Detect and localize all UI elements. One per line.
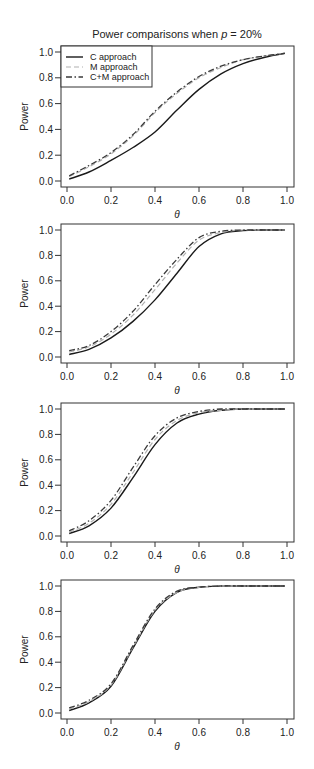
x-tick-label: 0.4 [148,371,162,382]
series-line-c-m-approach [69,230,285,351]
series-line-m-approach [69,230,285,352]
x-axis: 0.00.20.40.60.81.0θ [60,719,294,752]
x-tick-label: 0.2 [104,727,118,738]
y-tick-label: 0.6 [39,454,53,465]
y-tick-label: 0.2 [39,150,53,161]
y-tick-label: 1.0 [39,404,53,415]
y-axis: 0.00.20.40.60.81.0Power [19,225,61,363]
x-tick-label: 0.0 [60,195,74,206]
x-tick-label: 0.6 [192,550,206,561]
y-axis-title: Power [19,635,30,664]
chart-panel-4: 0.00.20.40.60.81.0Power0.00.20.40.60.81.… [19,580,294,752]
series-line-c-approach [69,409,285,534]
legend: C approachM approachC+M approach [61,46,152,87]
x-tick-label: 0.0 [60,727,74,738]
y-axis-title: Power [19,102,30,131]
y-tick-label: 0.4 [39,657,53,668]
y-tick-label: 0.8 [39,250,53,261]
y-tick-label: 0.8 [39,429,53,440]
power-comparison-figure: Power comparisons when p = 20% 0.00.20.4… [0,0,314,769]
y-tick-label: 1.0 [39,581,53,592]
x-tick-label: 0.6 [192,371,206,382]
y-tick-label: 0.4 [39,480,53,491]
x-tick-label: 0.8 [236,550,250,561]
x-tick-label: 1.0 [280,195,294,206]
x-tick-label: 0.4 [148,195,162,206]
x-axis: 0.00.20.40.60.81.0θ [60,363,294,396]
y-tick-label: 0.8 [39,606,53,617]
y-tick-label: 1.0 [39,47,53,58]
x-tick-label: 0.6 [192,195,206,206]
y-tick-label: 0.2 [39,505,53,516]
x-tick-label: 0.0 [60,371,74,382]
chart-panel-2: 0.00.20.40.60.81.0Power0.00.20.40.60.81.… [19,224,294,396]
series-line-c-m-approach [69,409,285,531]
x-axis-title: θ [174,564,180,575]
x-tick-label: 0.8 [236,371,250,382]
y-axis: 0.00.20.40.60.81.0Power [19,581,61,719]
y-tick-label: 0.0 [39,176,53,187]
x-axis: 0.00.20.40.60.81.0θ [60,542,294,575]
series-line-m-approach [69,409,285,532]
y-tick-label: 0.2 [39,682,53,693]
y-tick-label: 1.0 [39,225,53,236]
series-line-c-m-approach [69,586,285,708]
x-tick-label: 1.0 [280,727,294,738]
y-tick-label: 0.6 [39,275,53,286]
x-tick-label: 0.8 [236,195,250,206]
x-tick-label: 0.8 [236,727,250,738]
y-tick-label: 0.4 [39,301,53,312]
x-axis-title: θ [174,385,180,396]
x-tick-label: 0.4 [148,727,162,738]
series-line-c-approach [69,230,285,355]
x-tick-label: 0.4 [148,550,162,561]
chart-panel-1: 0.00.20.40.60.81.0Power0.00.20.40.60.81.… [19,46,294,220]
x-tick-label: 0.2 [104,371,118,382]
x-axis: 0.00.20.40.60.81.0θ [60,187,294,220]
series-line-m-approach [69,586,285,709]
x-tick-label: 0.2 [104,550,118,561]
y-tick-label: 0.0 [39,531,53,542]
x-axis-title: θ [174,741,180,752]
chart-panel-3: 0.00.20.40.60.81.0Power0.00.20.40.60.81.… [19,403,294,575]
y-tick-label: 0.6 [39,631,53,642]
y-axis: 0.00.20.40.60.81.0Power [19,47,61,187]
series-line-c-approach [69,586,285,711]
figure-title: Power comparisons when p = 20% [92,28,262,40]
y-tick-label: 0.4 [39,124,53,135]
y-axis-title: Power [19,458,30,487]
legend-label: C+M approach [90,72,149,82]
legend-label: M approach [90,62,138,72]
x-tick-label: 1.0 [280,371,294,382]
y-tick-label: 0.0 [39,352,53,363]
legend-label: C approach [90,52,137,62]
y-axis-title: Power [19,279,30,308]
x-tick-label: 0.6 [192,727,206,738]
y-axis: 0.00.20.40.60.81.0Power [19,404,61,542]
x-axis-title: θ [174,209,180,220]
y-tick-label: 0.6 [39,98,53,109]
x-tick-label: 0.2 [104,195,118,206]
x-tick-label: 1.0 [280,550,294,561]
x-tick-label: 0.0 [60,550,74,561]
y-tick-label: 0.2 [39,326,53,337]
y-tick-label: 0.0 [39,708,53,719]
y-tick-label: 0.8 [39,72,53,83]
